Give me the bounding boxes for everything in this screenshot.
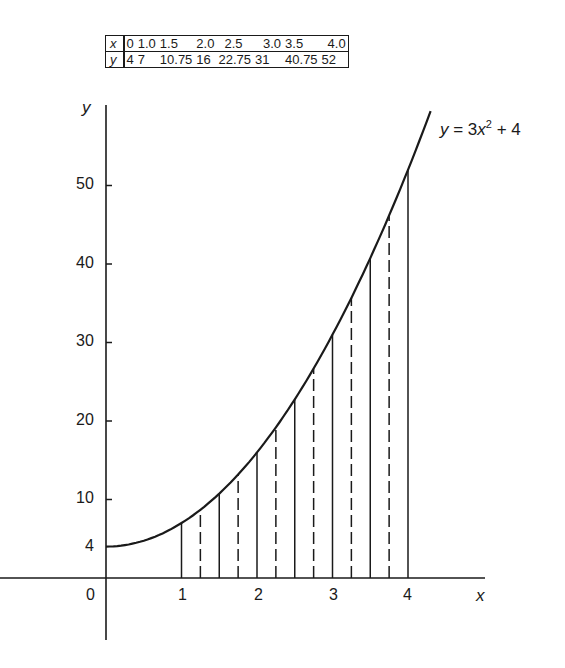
x-tick-label: 1 <box>178 586 187 604</box>
x-tick-label: 2 <box>254 586 263 604</box>
y-axis-ticks <box>106 186 112 500</box>
equation-eq: = 3 <box>449 120 478 139</box>
equation-annotation: y = 3x2 + 4 <box>440 118 521 140</box>
x-tick-label: 3 <box>329 586 338 604</box>
curve-line <box>106 111 431 546</box>
y-axis-label: y <box>82 98 91 118</box>
y-tick-label: 40 <box>76 254 94 272</box>
x-tick-label: 4 <box>403 586 412 604</box>
y-tick-label: 30 <box>76 332 94 350</box>
y-tick-label: 4 <box>85 537 94 555</box>
y-tick-label: 10 <box>76 489 94 507</box>
y-tick-label: 20 <box>76 411 94 429</box>
y-tick-label: 50 <box>76 175 94 193</box>
equation-var: x <box>477 120 486 139</box>
equation-lhs: y <box>440 120 449 139</box>
equation-rest: + 4 <box>492 120 521 139</box>
ordinate-lines <box>182 170 409 578</box>
origin-label: 0 <box>86 586 95 604</box>
x-axis-label: x <box>476 586 485 606</box>
